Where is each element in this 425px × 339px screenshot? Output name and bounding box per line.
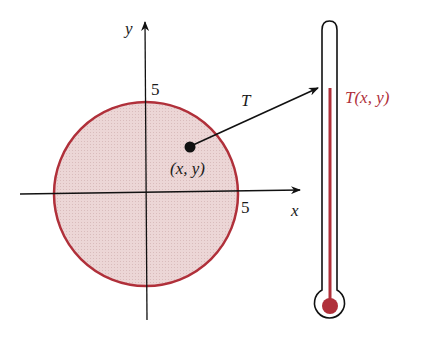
- diagram-canvas: y x 5 5 (x, y) T T(x, y): [0, 0, 425, 339]
- point-marker: [185, 142, 196, 153]
- x-axis-label: x: [290, 201, 299, 220]
- mapping-arrow: [193, 88, 318, 145]
- thermometer-icon: [315, 21, 345, 318]
- thermometer-label: T(x, y): [345, 88, 390, 107]
- thermometer-bulb: [322, 298, 338, 314]
- diagram-svg: y x 5 5 (x, y) T T(x, y): [0, 0, 425, 339]
- mapping-label: T: [241, 91, 252, 110]
- point-label: (x, y): [170, 159, 205, 178]
- x-tick-label: 5: [241, 198, 250, 217]
- y-axis-label: y: [123, 19, 133, 38]
- y-tick-label: 5: [151, 80, 160, 99]
